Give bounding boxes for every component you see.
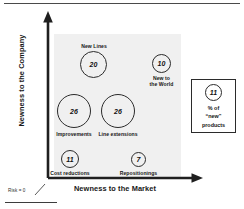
bubble-label-improvements: Improvements xyxy=(52,131,96,137)
bubble-label-line-extensions: Line extensions xyxy=(95,131,141,137)
legend-caption-line2: “new” xyxy=(206,113,222,119)
bubble-value: 10 xyxy=(158,60,166,67)
bubble-chart-figure: Newness to the Company Newness to the Ma… xyxy=(0,0,244,209)
bubble-value: 26 xyxy=(70,108,78,115)
bubble-line-extensions[interactable]: 26 xyxy=(101,94,135,128)
bubble-new-to-the-world[interactable]: 10 xyxy=(152,54,171,73)
origin-leader-line xyxy=(35,184,45,195)
legend-caption-line3: products xyxy=(202,122,225,128)
legend-caption: % of “new” products xyxy=(193,104,234,129)
bubble-cost-reductions[interactable]: 11 xyxy=(61,150,79,168)
origin-risk-label: Risk = 0 xyxy=(8,188,26,193)
bubble-improvements[interactable]: 26 xyxy=(57,94,91,128)
y-axis-label: Newness to the Company xyxy=(17,33,26,129)
bubble-label-cost-reductions: Cost reductions xyxy=(48,170,92,176)
x-axis-label: Newness to the Market xyxy=(58,184,172,193)
bubble-label-new-lines: New Lines xyxy=(73,43,115,49)
bubble-value: 26 xyxy=(114,108,122,115)
bubble-new-lines[interactable]: 20 xyxy=(80,51,107,78)
bubble-label-line2: the World xyxy=(150,81,174,87)
legend-sample-bubble: 11 xyxy=(205,84,222,101)
legend-caption-line1: % of xyxy=(208,105,219,111)
bubble-repositionings[interactable]: 7 xyxy=(131,152,146,167)
bubble-value: 7 xyxy=(137,156,141,163)
x-axis-arrowhead xyxy=(192,173,204,183)
bubble-label-repositionings: Repositionings xyxy=(116,170,161,176)
bubble-value: 20 xyxy=(90,61,98,68)
bubble-value: 11 xyxy=(66,156,73,163)
legend-sample-value: 11 xyxy=(210,89,217,96)
bubble-label-new-to-the-world: New to the World xyxy=(143,75,180,87)
y-axis-arrowhead xyxy=(43,11,53,23)
